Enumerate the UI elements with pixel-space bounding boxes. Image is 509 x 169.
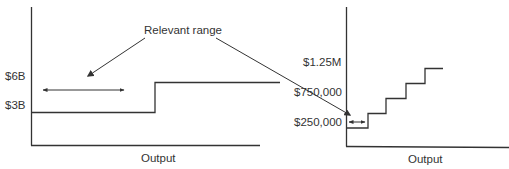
- annotation: Relevant range: [88, 24, 350, 115]
- right-tick-250000: $250,000: [294, 116, 342, 128]
- left-step-line: [31, 83, 280, 113]
- relevant-range-charts: $6B $3B Output Relevant range $1.25M $75…: [0, 0, 509, 169]
- left-x-label: Output: [141, 152, 176, 164]
- right-x-axis: [346, 147, 509, 148]
- annotation-label: Relevant range: [144, 24, 222, 36]
- left-tick-6b: $6B: [5, 70, 26, 82]
- right-tick-1-25m: $1.25M: [303, 56, 341, 68]
- right-step-line: [347, 69, 443, 129]
- right-chart: $1.25M $750,000 $250,000 Output: [294, 7, 509, 165]
- left-tick-3b: $3B: [5, 99, 26, 111]
- annotation-arrow-right: [216, 38, 350, 115]
- left-chart: $6B $3B Output: [5, 7, 280, 164]
- annotation-arrow-left: [88, 38, 145, 76]
- right-tick-750000: $750,000: [294, 86, 342, 98]
- right-x-label: Output: [408, 153, 443, 165]
